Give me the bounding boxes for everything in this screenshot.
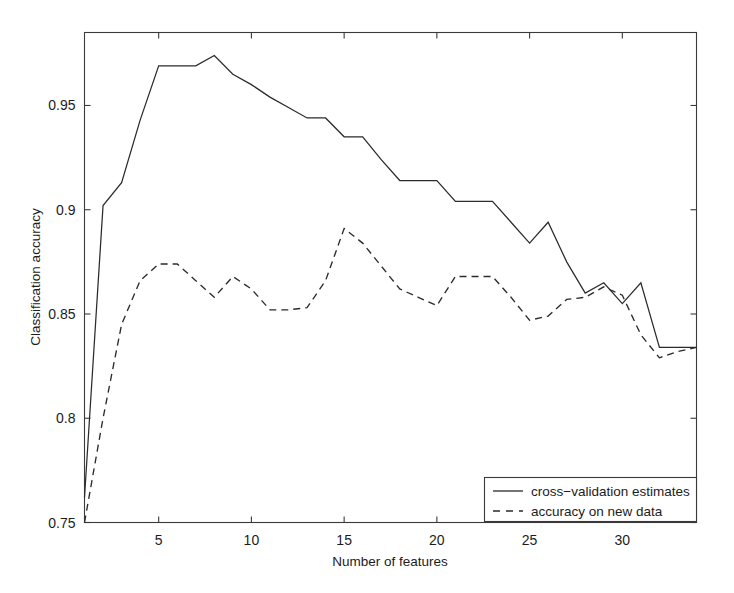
x-tick-label-5: 5 — [155, 532, 163, 548]
line-chart: 51015202530 0.750.80.850.90.95 Number of… — [0, 0, 734, 593]
y-tick-label-0.9: 0.9 — [56, 202, 76, 218]
x-axis-tick-labels: 51015202530 — [155, 532, 631, 548]
legend-label-accuracy-on-new-data: accuracy on new data — [531, 504, 663, 519]
y-tick-label-0.85: 0.85 — [48, 306, 75, 322]
x-tick-label-30: 30 — [615, 532, 631, 548]
y-axis-ticks — [85, 105, 697, 522]
x-tick-label-25: 25 — [522, 532, 538, 548]
legend: cross−validation estimates accuracy on n… — [485, 478, 697, 522]
legend-label-cross-validation-estimates: cross−validation estimates — [531, 484, 690, 499]
y-tick-label-0.8: 0.8 — [56, 410, 76, 426]
x-axis-title: Number of features — [332, 554, 448, 569]
y-axis-tick-labels: 0.750.80.850.90.95 — [48, 97, 75, 530]
y-axis-title: Classification accuracy — [28, 208, 43, 346]
x-tick-label-15: 15 — [336, 532, 352, 548]
figure-canvas: 51015202530 0.750.80.850.90.95 Number of… — [0, 0, 734, 593]
x-tick-label-20: 20 — [429, 532, 445, 548]
y-tick-label-0.75: 0.75 — [48, 515, 75, 531]
y-tick-label-0.95: 0.95 — [48, 97, 75, 113]
x-tick-label-10: 10 — [244, 532, 260, 548]
